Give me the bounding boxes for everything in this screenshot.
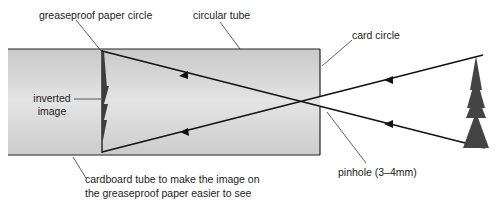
label-cardboard-tube: cardboard tube to make the image on the … — [85, 172, 260, 200]
label-card-circle: card circle — [352, 29, 400, 42]
ray-arrow-icon — [384, 120, 393, 128]
leader-greaseproof — [76, 20, 102, 52]
tree-object-icon — [463, 56, 489, 148]
leader-tube — [220, 22, 240, 49]
leader-pinhole — [327, 112, 366, 163]
label-circular-tube: circular tube — [193, 9, 250, 22]
label-greaseproof: greaseproof paper circle — [39, 9, 152, 22]
label-inverted-line1: inverted — [31, 92, 73, 105]
label-inverted-line2: image — [31, 105, 73, 118]
leader-card — [322, 40, 352, 66]
label-inverted: inverted image — [31, 92, 73, 118]
label-cardboard-line2: the greaseproof paper easier to see — [85, 186, 260, 200]
ray-arrow-icon — [384, 76, 393, 84]
label-cardboard-line1: cardboard tube to make the image on — [85, 172, 260, 186]
label-pinhole: pinhole (3–4mm) — [338, 166, 417, 179]
